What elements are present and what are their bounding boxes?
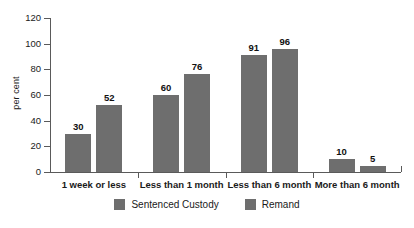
legend-item-label: Sentenced Custody [131,199,218,210]
y-axis-tick: 0 [0,172,50,173]
x-axis-separator [313,172,314,178]
legend-item-label: Remand [262,199,300,210]
x-axis-separator [226,172,227,178]
bar-value-label: 60 [153,83,179,93]
y-axis-tick-label: 100 [25,39,41,49]
y-axis-tick: 40 [0,121,50,122]
x-axis-end-cap [401,166,402,172]
bar [96,105,122,172]
bar [360,166,386,172]
legend-item[interactable]: Remand [245,199,300,210]
bar-chart: per cent 020406080100120 305260769196105… [0,0,414,228]
y-axis-tick-label: 120 [25,13,41,23]
legend-item[interactable]: Sentenced Custody [114,199,218,210]
y-axis-tick-label: 20 [30,141,41,151]
x-axis-category-label: Less than 6 month [226,179,314,190]
x-axis-category-label: 1 week or less [50,179,138,190]
bar [65,134,91,173]
y-axis-tick: 20 [0,146,50,147]
y-axis-tick-label: 40 [30,116,41,126]
bar-value-label: 5 [360,154,386,164]
bar-value-label: 10 [329,147,355,157]
bar-value-label: 76 [184,62,210,72]
bar [184,74,210,172]
y-axis-tick-label: 0 [36,167,41,177]
bar [329,159,355,172]
y-axis-tick-label: 80 [30,64,41,74]
legend-swatch-icon [114,199,125,210]
y-axis-tick: 60 [0,95,50,96]
bar-value-label: 96 [272,37,298,47]
y-axis-tick: 120 [0,18,50,19]
bar-value-label: 52 [96,93,122,103]
bar-value-label: 30 [65,122,91,132]
y-axis-tick-label: 60 [30,90,41,100]
bar [241,55,267,172]
legend-swatch-icon [245,199,256,210]
x-axis-category-label: More than 6 month [313,179,401,190]
bar-value-label: 91 [241,43,267,53]
x-axis-category-label: Less than 1 month [138,179,226,190]
bar [272,49,298,172]
bar [153,95,179,172]
x-axis-separator [138,172,139,178]
chart-legend: Sentenced CustodyRemand [0,199,414,210]
plot-area: 305260769196105 [50,18,401,172]
y-axis-tick: 80 [0,69,50,70]
y-axis-tick: 100 [0,44,50,45]
